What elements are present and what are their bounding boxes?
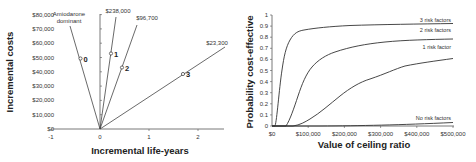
point-label-1: 1 xyxy=(114,50,118,59)
ray-2 xyxy=(100,25,137,129)
x-tick-label: $300,000 xyxy=(368,131,394,137)
ratio-label-238000: $238,000 xyxy=(105,8,131,14)
y-tick-label: $60,000 xyxy=(32,40,54,46)
x-tick-label: $0 xyxy=(269,131,276,137)
y-tick-label: $30,000 xyxy=(32,83,54,89)
point-3 xyxy=(181,72,184,75)
point-1 xyxy=(109,52,112,55)
right-x-axis-title: Value of ceiling ratio xyxy=(318,139,411,150)
x-tick-label: 1 xyxy=(147,134,151,140)
y-tick-label: 1 xyxy=(265,12,269,18)
y-tick-label: $50,000 xyxy=(32,55,54,61)
y-tick-label: 0.3 xyxy=(260,90,269,96)
curve-2-risk-factors xyxy=(272,39,453,126)
point-0 xyxy=(79,57,82,60)
acceptability-curves xyxy=(272,24,453,127)
ratio-label-23300: $23,300 xyxy=(206,40,228,46)
x-tick-label: $400,000 xyxy=(404,131,430,137)
icer-rays xyxy=(70,17,225,129)
y-tick-label: 0.9 xyxy=(260,23,269,29)
annotation-amiodarone-line1: Amiodarone xyxy=(53,11,86,17)
right-x-tick-labels: $0 $100,000 $200,000 $300,000 $400,000 $… xyxy=(269,131,467,137)
y-tick-label: $70,000 xyxy=(32,26,54,32)
scenario-points xyxy=(79,52,185,76)
left-x-axis-title: Incremental life-years xyxy=(91,145,189,156)
curve-3-risk-factors xyxy=(272,24,453,127)
y-tick-label: 0.7 xyxy=(260,45,269,51)
y-tick-label: 0.1 xyxy=(260,112,269,118)
left-y-axis-title: Incremental costs xyxy=(4,32,15,113)
ratio-label-96700: $96,700 xyxy=(136,15,158,21)
point-2 xyxy=(120,66,123,69)
left-x-tick-labels: -1 0 1 2 xyxy=(48,134,200,140)
point-label-2: 2 xyxy=(125,64,129,73)
ray-0 xyxy=(70,26,100,129)
x-tick-label: 0 xyxy=(98,134,102,140)
label-2-risk-factors: 2 risk factors xyxy=(420,27,451,33)
y-tick-label: 0.2 xyxy=(260,101,269,107)
y-tick-label: 0.6 xyxy=(260,56,269,62)
point-label-0: 0 xyxy=(84,55,88,64)
label-1-risk-factor: 1 risk factor xyxy=(423,44,452,50)
y-tick-label: 0.5 xyxy=(260,68,269,74)
y-tick-label: $80,000 xyxy=(32,12,54,18)
annotation-amiodarone-line2: dominant xyxy=(57,18,82,24)
right-y-axis-title: Probability cost-effective xyxy=(244,16,255,129)
left-chart-svg: Incremental costs $0 $10,000 $20,000 $30… xyxy=(0,0,240,162)
y-tick-label: 0.4 xyxy=(260,79,269,85)
ray-3 xyxy=(100,47,225,129)
point-label-3: 3 xyxy=(186,70,190,79)
right-chart-svg: Probability cost-effective 0 0.1 0.2 0.3… xyxy=(240,0,476,162)
right-y-tick-labels: 0 0.1 0.2 0.3 0.4 0.5 0.6 0.7 0.8 0.9 1 xyxy=(260,12,269,129)
y-tick-label: 0.8 xyxy=(260,34,269,40)
x-tick-label: $200,000 xyxy=(332,131,358,137)
acceptability-curve-chart: Probability cost-effective 0 0.1 0.2 0.3… xyxy=(240,0,476,162)
x-tick-label: 2 xyxy=(196,134,200,140)
label-3-risk-factors: 3 risk factors xyxy=(420,17,451,23)
cost-effectiveness-plane-chart: Incremental costs $0 $10,000 $20,000 $30… xyxy=(0,0,240,162)
y-tick-label: 0 xyxy=(265,123,269,129)
left-y-tick-labels: $0 $10,000 $20,000 $30,000 $40,000 $50,0… xyxy=(32,12,54,132)
y-tick-label: $20,000 xyxy=(32,97,54,103)
y-tick-label: $40,000 xyxy=(32,69,54,75)
x-tick-label: -1 xyxy=(48,134,54,140)
ray-1 xyxy=(100,17,116,129)
label-no-risk-factors: No risk factors xyxy=(416,115,451,121)
y-tick-label: $10,000 xyxy=(32,112,54,118)
x-tick-label: $100,000 xyxy=(296,131,322,137)
x-tick-label: $500,000 xyxy=(440,131,466,137)
